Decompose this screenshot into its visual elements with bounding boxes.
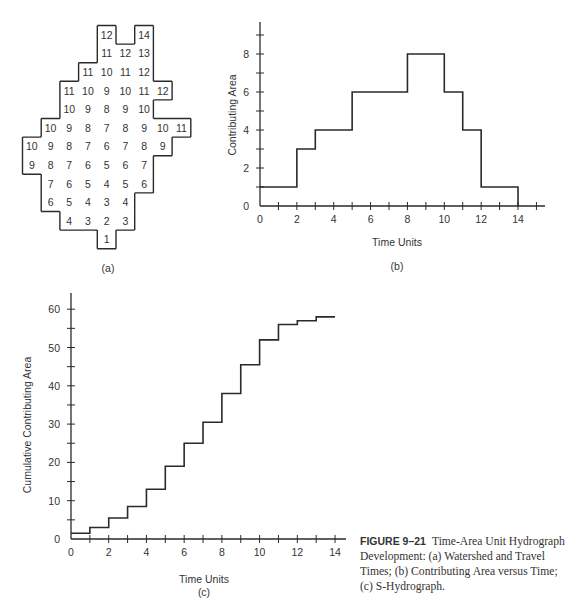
travel-time-cell: 8 (48, 159, 54, 171)
x-tick-label: 8 (405, 213, 411, 225)
travel-time-cell: 10 (138, 103, 150, 115)
y-tick-label: 0 (243, 200, 249, 212)
x-tick-label: 4 (144, 546, 150, 558)
watershed-grid-panel: 1214111213111011121110910111210989101098… (23, 26, 191, 249)
travel-time-cell: 8 (141, 140, 147, 152)
travel-time-cell: 12 (157, 85, 169, 97)
travel-time-cell: 7 (104, 122, 110, 134)
step-series-line (71, 317, 335, 533)
travel-time-cell: 6 (141, 178, 147, 190)
x-tick-label: 10 (254, 546, 266, 558)
x-tick-label: 4 (331, 213, 337, 225)
travel-time-cell: 9 (29, 159, 35, 171)
travel-time-cell: 10 (120, 85, 132, 97)
travel-time-cell: 2 (104, 215, 110, 227)
travel-time-cell: 9 (85, 103, 91, 115)
x-tick-label: 6 (368, 213, 374, 225)
travel-time-cell: 4 (85, 196, 91, 208)
x-tick-label: 14 (512, 213, 524, 225)
travel-time-cell: 6 (85, 159, 91, 171)
x-tick-label: 2 (294, 213, 300, 225)
travel-time-cell: 7 (66, 159, 72, 171)
x-tick-label: 8 (219, 546, 225, 558)
chart-c-panel-label: (c) (198, 586, 210, 598)
travel-time-cell: 11 (82, 66, 93, 78)
travel-time-cell: 4 (104, 178, 110, 190)
y-tick-label: 8 (243, 48, 249, 60)
travel-time-cell: 7 (85, 140, 91, 152)
y-tick-label: 6 (243, 86, 249, 98)
travel-time-cell: 6 (122, 159, 128, 171)
x-tick-label: 0 (257, 213, 263, 225)
y-tick-label: 50 (48, 342, 60, 354)
travel-time-cell: 8 (66, 140, 72, 152)
y-tick-label: 0 (54, 533, 60, 545)
travel-time-cell: 9 (104, 85, 110, 97)
s-hydrograph-chart: 024681012140102030405060 (48, 293, 346, 558)
travel-time-cell: 4 (122, 196, 128, 208)
step-series-line (260, 54, 518, 206)
travel-time-cell: 12 (101, 29, 113, 41)
figure-number: FIGURE 9–21 (360, 535, 426, 547)
travel-time-cell: 1 (104, 233, 110, 245)
contributing-area-chart: 0246810121402468 (243, 22, 545, 225)
travel-time-cell: 7 (48, 178, 54, 190)
chart-c-xlabel: Time Units (179, 573, 229, 585)
panel-a-label: (a) (102, 262, 115, 274)
travel-time-cell: 6 (48, 196, 54, 208)
figure-canvas: 1214111213111011121110910111210989101098… (0, 0, 567, 599)
chart-b-ylabel: Contributing Area (226, 74, 238, 155)
travel-time-cell: 6 (104, 140, 110, 152)
y-tick-label: 30 (48, 418, 60, 430)
travel-time-cell: 7 (141, 159, 147, 171)
travel-time-cell: 10 (45, 122, 57, 134)
travel-time-cell: 3 (122, 215, 128, 227)
travel-time-cell: 9 (48, 140, 54, 152)
travel-time-cell: 9 (66, 122, 72, 134)
travel-time-cell: 5 (66, 196, 72, 208)
travel-time-cell: 9 (141, 122, 147, 134)
travel-time-cell: 11 (120, 66, 131, 78)
y-tick-label: 40 (48, 380, 60, 392)
travel-time-cell: 5 (104, 159, 110, 171)
x-tick-label: 6 (181, 546, 187, 558)
y-tick-label: 20 (48, 456, 60, 468)
travel-time-cell: 10 (26, 140, 38, 152)
y-tick-label: 4 (243, 124, 249, 136)
x-tick-label: 14 (329, 546, 341, 558)
y-tick-label: 60 (48, 303, 60, 315)
travel-time-cell: 7 (122, 140, 128, 152)
travel-time-cell: 12 (138, 66, 150, 78)
travel-time-cell: 10 (101, 66, 113, 78)
y-tick-label: 10 (48, 495, 60, 507)
travel-time-cell: 13 (138, 47, 150, 59)
travel-time-cell: 11 (176, 122, 187, 134)
figure-caption: FIGURE 9–21Time-Area Unit Hydrograph Dev… (360, 534, 565, 594)
travel-time-cell: 9 (122, 103, 128, 115)
travel-time-cell: 8 (122, 122, 128, 134)
chart-b-panel-label: (b) (391, 260, 404, 272)
x-tick-label: 2 (106, 546, 112, 558)
x-tick-label: 12 (291, 546, 303, 558)
travel-time-cell: 3 (85, 215, 91, 227)
y-tick-label: 2 (243, 162, 249, 174)
travel-time-cell: 6 (66, 178, 72, 190)
travel-time-cell: 8 (85, 122, 91, 134)
travel-time-cell: 5 (122, 178, 128, 190)
travel-time-cell: 8 (104, 103, 110, 115)
x-tick-label: 10 (438, 213, 450, 225)
chart-b-xlabel: Time Units (372, 236, 422, 248)
travel-time-cell: 11 (139, 85, 150, 97)
travel-time-cell: 10 (63, 103, 75, 115)
travel-time-cell: 11 (64, 85, 75, 97)
travel-time-cell: 11 (101, 47, 112, 59)
travel-time-cell: 10 (82, 85, 94, 97)
x-tick-label: 12 (475, 213, 487, 225)
travel-time-cell: 9 (160, 140, 166, 152)
travel-time-cell: 14 (138, 29, 150, 41)
chart-c-ylabel: Cumulative Contributing Area (21, 357, 33, 494)
travel-time-cell: 5 (85, 178, 91, 190)
travel-time-cell: 10 (157, 122, 169, 134)
x-tick-label: 0 (68, 546, 74, 558)
travel-time-cell: 4 (66, 215, 72, 227)
